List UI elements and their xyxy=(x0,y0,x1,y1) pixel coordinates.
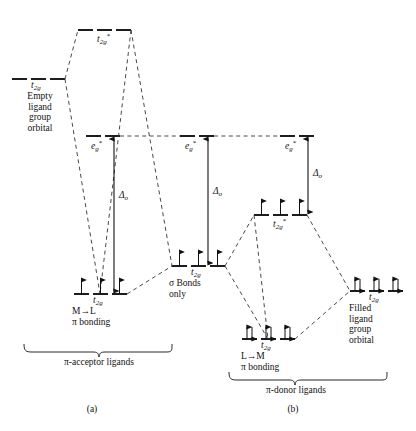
caption-ml-pi-bonding: M→L π bonding xyxy=(72,306,110,327)
electrons-t2g-bonding-b xyxy=(247,327,290,339)
caption-sigma-only: σ Bonds only xyxy=(169,278,201,299)
label-delta-o-sigma: Δo xyxy=(213,186,222,200)
electrons-t2g-sigma xyxy=(180,252,218,266)
mo-energy-diagram: t2g Empty ligand group orbital t2g* eg* … xyxy=(0,0,416,431)
bracket-label-pi-acceptor: π-acceptor ligands xyxy=(39,357,159,368)
label-eg-star-b: eg* xyxy=(285,138,296,155)
caption-filled-ligand: Filled ligand group orbital xyxy=(349,303,374,345)
bracket-label-pi-donor: π-donor ligands xyxy=(248,385,344,396)
caption-empty-ligand: Empty ligand group orbital xyxy=(11,91,69,133)
caption-a: (a) xyxy=(77,404,107,415)
label-eg-star-a: eg* xyxy=(91,138,102,155)
caption-b: (b) xyxy=(278,404,308,415)
label-t2g-star-a: t2g* xyxy=(97,31,110,48)
label-delta-o-b: Δo xyxy=(313,168,322,182)
label-eg-star-sigma: eg* xyxy=(185,138,196,155)
brace-pi-acceptor xyxy=(24,344,172,357)
label-delta-o-a: Δo xyxy=(119,190,128,204)
label-t2g-star-b: t2g* xyxy=(273,216,286,233)
brace-pi-donor xyxy=(229,372,387,385)
caption-lm-pi-bonding: L→M π bonding xyxy=(241,351,279,372)
electrons-t2g-star-b xyxy=(262,201,300,215)
electrons-filled-ligand-t2g xyxy=(355,279,398,291)
